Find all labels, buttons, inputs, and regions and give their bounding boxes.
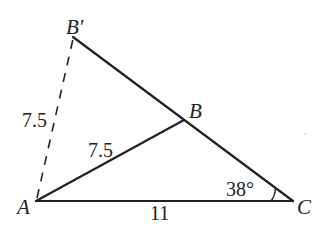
length-label-ab: 7.5 — [88, 139, 113, 161]
length-label-ab-prime: 7.5 — [22, 109, 47, 131]
segment-bprime-c — [73, 37, 293, 201]
vertex-label-a: A — [15, 195, 30, 219]
vertex-label-c: C — [297, 195, 312, 219]
angle-label-c: 38° — [226, 178, 254, 200]
vertex-label-b: B — [189, 99, 202, 123]
scan-speck — [304, 133, 306, 135]
triangle-diagram: B′ B A C 7.5 7.5 11 38° — [0, 0, 329, 235]
angle-arc-c — [271, 188, 275, 201]
length-label-ac: 11 — [150, 202, 169, 224]
vertex-label-bprime: B′ — [66, 15, 84, 39]
